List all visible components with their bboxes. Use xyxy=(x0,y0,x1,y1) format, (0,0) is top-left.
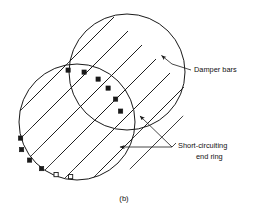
damper-bars-leader xyxy=(162,56,192,71)
short-circuiting-label-line2: end ring xyxy=(196,152,223,161)
damper-bars-upper-clip xyxy=(0,3,212,217)
short-circuiting-label-line1: Short-circuiting xyxy=(178,141,227,150)
damper-bars-group xyxy=(0,3,212,217)
figure-caption: (b) xyxy=(119,194,129,203)
damper-bars-lower-clip xyxy=(0,3,212,217)
upper-ring-bar-nodes xyxy=(66,68,123,113)
figure-container: Damper bars Short-circuiting end ring (b… xyxy=(0,0,260,217)
rotor-damper-diagram: Damper bars Short-circuiting end ring (b… xyxy=(0,0,260,217)
lower-ring-bar-nodes xyxy=(19,136,73,179)
damper-bars-band-clip xyxy=(0,17,198,217)
damper-bars-label: Damper bars xyxy=(194,65,237,74)
